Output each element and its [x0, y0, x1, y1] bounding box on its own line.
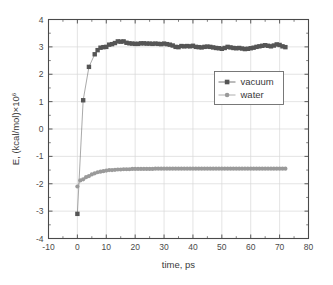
- chart-legend: vacuumwater: [215, 72, 284, 105]
- svg-text:E, (kcal/mol)×106: E, (kcal/mol)×106: [10, 92, 21, 165]
- data-point: [75, 184, 79, 188]
- x-tick-label: -10: [42, 242, 55, 252]
- x-tick-label: 20: [130, 242, 140, 252]
- x-tick-label: 10: [102, 242, 112, 252]
- y-tick-label: -4: [36, 234, 44, 244]
- x-tick-label: 50: [217, 242, 227, 252]
- x-tick-label: 80: [304, 242, 314, 252]
- y-tick-label: 1: [39, 97, 44, 107]
- x-tick-label: 70: [275, 242, 285, 252]
- chart-figure: -1001020304050607080-4-3-2-101234 vacuum…: [0, 0, 333, 285]
- y-axis-title: E, (kcal/mol)×106: [10, 92, 21, 165]
- x-tick-label: 60: [246, 242, 256, 252]
- y-tick-label: 0: [39, 124, 44, 134]
- y-tick-label: -1: [36, 151, 44, 161]
- legend-marker: [225, 80, 230, 85]
- y-tick-label: 2: [39, 69, 44, 79]
- data-point: [87, 65, 91, 69]
- y-tick-label: 4: [39, 15, 44, 25]
- y-tick-label: -3: [36, 206, 44, 216]
- data-point: [283, 45, 287, 49]
- data-point: [283, 167, 287, 171]
- y-tick-label: 3: [39, 42, 44, 52]
- legend-marker: [225, 93, 230, 98]
- x-axis-title: time, ps: [162, 259, 196, 270]
- energy-vs-time-plot: -1001020304050607080-4-3-2-101234 vacuum…: [0, 0, 333, 285]
- x-tick-label: 0: [75, 242, 80, 252]
- data-point: [93, 52, 97, 56]
- y-tick-label: -2: [36, 179, 44, 189]
- data-point: [75, 212, 79, 216]
- legend-label: water: [240, 89, 264, 100]
- legend-label: vacuum: [241, 76, 274, 87]
- x-tick-label: 40: [188, 242, 198, 252]
- x-tick-label: 30: [159, 242, 169, 252]
- data-point: [81, 98, 85, 102]
